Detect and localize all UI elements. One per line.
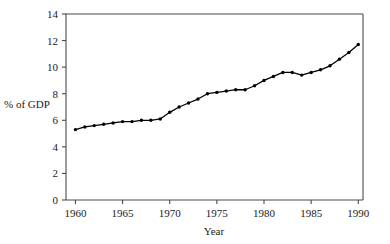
- data-point: [206, 92, 209, 95]
- data-point: [319, 68, 322, 71]
- data-point: [93, 124, 96, 127]
- data-point: [187, 101, 190, 104]
- data-point: [243, 88, 246, 91]
- data-point: [272, 75, 275, 78]
- data-point: [140, 119, 143, 122]
- data-point: [328, 64, 331, 67]
- data-point: [338, 57, 341, 60]
- y-tick-label-6: 6: [53, 114, 59, 126]
- data-point: [196, 97, 199, 100]
- data-point: [149, 119, 152, 122]
- y-axis-ticks: [62, 14, 66, 200]
- data-point: [253, 84, 256, 87]
- x-axis-title: Year: [204, 225, 225, 237]
- data-point: [309, 71, 312, 74]
- y-tick-label-2: 2: [53, 167, 59, 179]
- data-point: [111, 121, 114, 124]
- x-tick-label-1975: 1975: [206, 207, 229, 219]
- y-tick-label-0: 0: [53, 194, 59, 206]
- data-point: [102, 123, 105, 126]
- y-tick-label-10: 10: [47, 61, 59, 73]
- y-tick-label-12: 12: [47, 35, 58, 47]
- data-point: [121, 120, 124, 123]
- data-point: [168, 111, 171, 114]
- x-tick-label-1965: 1965: [112, 207, 135, 219]
- data-point: [74, 128, 77, 131]
- data-point: [300, 73, 303, 76]
- gdp-line-chart: 02468101214 1960196519701975198019851990…: [0, 0, 390, 244]
- plot-frame: [66, 14, 363, 200]
- data-point: [281, 71, 284, 74]
- data-series-markers: [74, 43, 360, 131]
- data-point: [347, 51, 350, 54]
- y-tick-label-4: 4: [53, 141, 59, 153]
- chart-container: 02468101214 1960196519701975198019851990…: [0, 0, 390, 244]
- y-tick-label-14: 14: [47, 8, 59, 20]
- data-point: [291, 71, 294, 74]
- data-point: [130, 120, 133, 123]
- data-point: [225, 89, 228, 92]
- y-tick-label-8: 8: [53, 88, 59, 100]
- data-series-line: [75, 45, 358, 130]
- data-point: [177, 105, 180, 108]
- data-point: [234, 88, 237, 91]
- axis-frame: [66, 14, 363, 200]
- x-tick-label-1980: 1980: [253, 207, 276, 219]
- x-tick-label-1990: 1990: [347, 207, 370, 219]
- data-point: [262, 79, 265, 82]
- x-tick-label-1960: 1960: [64, 207, 87, 219]
- y-axis-title: % of GDP: [4, 98, 50, 110]
- data-point: [357, 43, 360, 46]
- x-tick-label-1970: 1970: [159, 207, 182, 219]
- data-point: [159, 117, 162, 120]
- data-point: [83, 125, 86, 128]
- x-axis-tick-labels: 1960196519701975198019851990: [64, 207, 369, 219]
- x-tick-label-1985: 1985: [300, 207, 323, 219]
- data-point: [215, 91, 218, 94]
- x-axis-ticks: [75, 200, 358, 204]
